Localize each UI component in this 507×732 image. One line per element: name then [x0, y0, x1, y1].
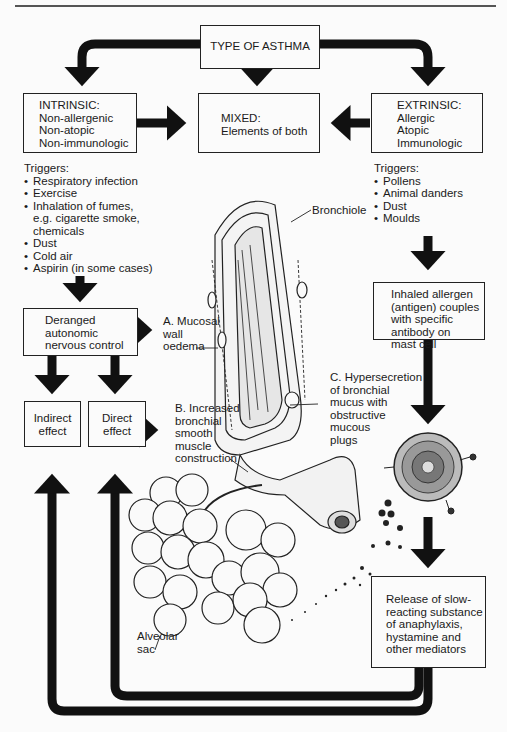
indirect-line: Indirect	[25, 412, 80, 425]
alveolar-sac-label: Alveolar sac	[137, 630, 179, 655]
trigger-item: Respiratory infection	[24, 175, 153, 188]
bronchiole-illustration	[196, 201, 360, 533]
triggers-label: Triggers:	[374, 162, 463, 175]
extrinsic-heading: EXTRINSIC:	[397, 99, 482, 112]
inhaled-line: mast cell	[391, 338, 484, 351]
inhaled-line: with specific	[391, 313, 484, 326]
alveolar-sac-illustration	[129, 474, 297, 650]
mixed-box: MIXED: Elements of both	[198, 93, 320, 153]
mixed-heading: MIXED:	[221, 112, 319, 125]
direct-effect-box: Direct effect	[88, 401, 146, 447]
extrinsic-line: Allergic	[397, 112, 482, 125]
mixed-line: Elements of both	[221, 125, 319, 138]
extrinsic-line: Atopic	[397, 124, 482, 137]
deranged-line: autonomic	[45, 327, 137, 340]
smooth-muscle-label: B. Increased bronchial smooth muscle con…	[175, 402, 240, 465]
inhaled-line: Inhaled allergen	[391, 288, 484, 301]
intrinsic-heading: INTRINSIC:	[39, 99, 136, 112]
direct-line: Direct	[89, 412, 145, 425]
deranged-box: Deranged autonomic nervous control	[23, 308, 138, 356]
release-line: Release of slow-	[386, 593, 485, 606]
release-line: reacting substance	[386, 606, 485, 619]
deranged-line: Deranged	[45, 314, 137, 327]
release-line: other mediators	[386, 643, 485, 656]
bronchiole-label: Bronchiole	[312, 204, 366, 217]
release-mediators-box: Release of slow- reacting substance of a…	[371, 576, 486, 668]
trigger-item: Animal danders	[374, 187, 463, 200]
intrinsic-box: INTRINSIC: Non-allergenic Non-atopic Non…	[23, 93, 137, 153]
release-line: of anaphylaxis,	[386, 618, 485, 631]
trigger-item: Dust	[24, 237, 153, 250]
release-line: hystamine and	[386, 631, 485, 644]
trigger-item: Exercise	[24, 187, 153, 200]
extrinsic-triggers: Triggers: Pollens Animal danders Dust Mo…	[374, 162, 463, 225]
triggers-label: Triggers:	[24, 162, 153, 175]
trigger-item: Pollens	[374, 175, 463, 188]
mucosal-wall-oedema-label: A. Mucosal wall oedema	[163, 315, 220, 353]
deranged-line: nervous control	[45, 339, 137, 352]
type-of-asthma-box: TYPE OF ASTHMA	[200, 25, 320, 69]
indirect-effect-box: Indirect effect	[24, 401, 81, 447]
type-of-asthma-title: TYPE OF ASTHMA	[201, 40, 319, 53]
intrinsic-line: Non-atopic	[39, 124, 136, 137]
intrinsic-line: Non-allergenic	[39, 112, 136, 125]
trigger-item: Cold air	[24, 250, 153, 263]
intrinsic-triggers: Triggers: Respiratory infection Exercise…	[24, 162, 153, 275]
direct-line: effect	[89, 425, 145, 438]
inhaled-allergen-box: Inhaled allergen (antigen) couples with …	[373, 282, 485, 340]
trigger-item: Moulds	[374, 212, 463, 225]
trigger-item: Dust	[374, 200, 463, 213]
intrinsic-line: Non-immunologic	[39, 137, 136, 150]
indirect-line: effect	[25, 425, 80, 438]
inhaled-line: (antigen) couples	[391, 301, 484, 314]
trigger-item: Inhalation of fumes, e.g. cigarette smok…	[24, 200, 153, 238]
arrow-to-intrinsic	[82, 44, 200, 80]
trigger-item: Aspirin (in some cases)	[24, 262, 153, 275]
inhaled-line: antibody on	[391, 326, 484, 339]
extrinsic-box: EXTRINSIC: Allergic Atopic Immunologic	[371, 93, 483, 153]
arrow-to-extrinsic	[315, 44, 428, 80]
extrinsic-line: Immunologic	[397, 137, 482, 150]
hypersecretion-label: C. Hypersecretion of bronchial mucus wit…	[330, 371, 422, 446]
